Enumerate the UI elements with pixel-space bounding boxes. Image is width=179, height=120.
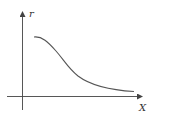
x-axis-label: X — [138, 102, 147, 113]
y-axis-label: r — [29, 8, 35, 19]
diagram-canvas: r X — [0, 0, 179, 120]
decreasing-curve — [34, 37, 134, 92]
